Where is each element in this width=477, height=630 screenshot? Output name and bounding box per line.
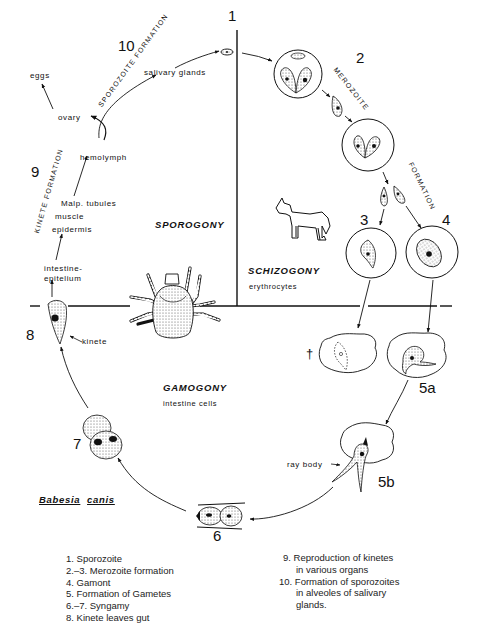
legend-item: 4. Gamont bbox=[66, 577, 174, 589]
zygote-7 bbox=[83, 415, 122, 459]
syngamy-6 bbox=[196, 503, 245, 529]
legend-item: 9. Reproduction of kinetes bbox=[279, 552, 399, 564]
label-ray-body: ray body bbox=[287, 461, 322, 469]
label-hemolymph: hemolymph bbox=[80, 154, 127, 162]
erythrocyte-2b bbox=[342, 119, 394, 171]
stage-number-5a: 5a bbox=[419, 380, 436, 395]
phase-label-sporogony: SPOROGONY bbox=[155, 220, 225, 230]
erythrocyte-2a bbox=[274, 50, 322, 98]
stage-number-9: 9 bbox=[31, 164, 39, 179]
legend-left: 1. Sporozoite 2.–3. Merozoite formation … bbox=[66, 553, 174, 624]
tick-illustration bbox=[131, 268, 219, 338]
sporozoite-1 bbox=[221, 49, 233, 55]
gamete-cell-5a bbox=[387, 333, 446, 378]
label-ovary: ovary bbox=[58, 114, 81, 122]
phase-label-gamogony: GAMOGONY bbox=[163, 383, 227, 393]
genus-name: Babesia bbox=[39, 494, 80, 505]
legend-item-continuation: in various organs bbox=[279, 564, 399, 576]
label-malp-tubules: Malp. tubules bbox=[61, 200, 116, 208]
stage-number-7: 7 bbox=[73, 436, 81, 451]
stage-number-5b: 5b bbox=[378, 474, 395, 489]
species-name: Babesia canis bbox=[39, 495, 115, 505]
merozoite-free bbox=[332, 96, 342, 116]
stage-number-2: 2 bbox=[356, 50, 364, 65]
stage-number-8: 8 bbox=[26, 327, 34, 342]
diagram-artwork bbox=[0, 0, 477, 630]
legend-item: 10. Formation of sporozoites bbox=[279, 576, 399, 588]
dog-illustration bbox=[276, 198, 330, 240]
stage-number-4: 4 bbox=[442, 212, 450, 227]
label-muscle: muscle bbox=[55, 213, 84, 221]
stage-number-3: 3 bbox=[360, 212, 368, 227]
degenerated-cell bbox=[319, 334, 376, 373]
legend-item: 2.–3. Merozoite formation bbox=[66, 565, 174, 577]
label-epidermis: epidermis bbox=[52, 226, 92, 234]
legend-item-continuation: in alveoles of salivary bbox=[279, 587, 399, 599]
label-salivary-glands: salivary glands bbox=[144, 69, 206, 77]
label-eggs: eggs bbox=[30, 72, 50, 80]
stage-number-1: 1 bbox=[228, 8, 236, 23]
legend-item-continuation: glands. bbox=[279, 599, 399, 611]
label-intestine: intestine- bbox=[44, 265, 82, 273]
erythrocyte-3 bbox=[346, 228, 396, 278]
label-kinete: kinete bbox=[82, 338, 107, 346]
dead-marker-dagger: † bbox=[306, 347, 314, 360]
legend-item: 8. Kinete leaves gut bbox=[66, 612, 174, 624]
species-epithet: canis bbox=[87, 494, 115, 505]
legend-item: 1. Sporozoite bbox=[66, 553, 174, 565]
kinete-8 bbox=[48, 300, 67, 344]
merozoite-pair bbox=[381, 186, 405, 206]
phase-label-schizogony: SCHIZOGONY bbox=[248, 266, 320, 276]
label-epitelium: epitelium bbox=[44, 275, 81, 283]
schizogony-site-label: erythrocytes bbox=[249, 283, 297, 291]
babesia-life-cycle-diagram: 1 2 3 4 5a 5b 6 7 8 9 10 SPOROGONY SCHIZ… bbox=[0, 0, 477, 630]
stage-number-10: 10 bbox=[118, 38, 135, 53]
legend-right: 9. Reproduction of kinetes in various or… bbox=[279, 552, 399, 611]
legend-item: 5. Formation of Gametes bbox=[66, 588, 174, 600]
erythrocyte-4-gamont bbox=[406, 226, 458, 278]
stage-number-6: 6 bbox=[213, 528, 221, 543]
gamogony-site-label: intestine cells bbox=[163, 400, 217, 408]
legend-item: 6.–7. Syngamy bbox=[66, 600, 174, 612]
